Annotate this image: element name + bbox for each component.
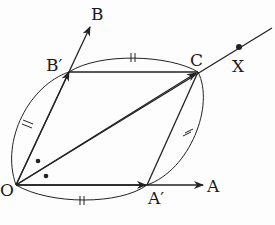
diagram-canvas: B B′ C X O A′ A [0, 0, 275, 225]
equal-mark-right [183, 129, 193, 136]
point-X [236, 44, 242, 50]
label-B: B [91, 6, 104, 23]
label-A: A [207, 178, 219, 195]
label-O: O [0, 182, 14, 199]
angle-dot-lower [44, 174, 49, 179]
label-A-prime: A′ [148, 190, 164, 207]
vector-OC [16, 73, 196, 185]
arc-B-prime-C [69, 58, 198, 72]
arc-OA-prime [16, 185, 147, 200]
label-B-prime: B′ [46, 57, 62, 74]
equal-mark-bottom [80, 196, 84, 205]
angle-dot-upper [36, 159, 41, 164]
arc-CA-prime [147, 72, 203, 185]
equal-mark-top [131, 53, 135, 62]
equal-mark-left [22, 120, 33, 128]
rhombus-diagram [0, 0, 275, 225]
label-C: C [190, 52, 203, 69]
label-X: X [232, 58, 244, 75]
